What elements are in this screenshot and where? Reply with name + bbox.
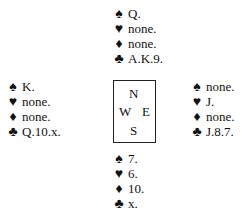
south-hearts-row: ♥6. [110,166,144,181]
east-hearts-row: ♥J. [188,94,235,109]
south-diamonds: 10. [128,181,144,196]
west-spades: K. [22,79,35,94]
north-spades: Q. [128,6,141,21]
compass-east: E [142,104,150,120]
north-diamonds: none. [128,36,157,51]
diamond-icon: ♦ [110,36,128,51]
club-icon: ♣ [110,51,128,66]
west-spades-row: ♠K. [4,79,61,94]
compass-south: S [130,123,137,139]
west-clubs-row: ♣Q.10.x. [4,124,61,139]
north-hearts-row: ♥none. [110,21,163,36]
diamond-icon: ♦ [110,181,128,196]
west-diamonds-row: ♦none. [4,109,61,124]
west-clubs: Q.10.x. [22,124,61,139]
north-hand: ♠Q. ♥none. ♦none. ♣A.K.9. [110,6,163,66]
west-diamonds: none. [22,109,51,124]
north-diamonds-row: ♦none. [110,36,163,51]
compass-west: W [119,104,131,120]
west-hand: ♠K. ♥none. ♦none. ♣Q.10.x. [4,79,61,139]
spade-icon: ♠ [4,79,22,94]
heart-icon: ♥ [4,94,22,109]
east-spades: none. [206,79,235,94]
diamond-icon: ♦ [4,109,22,124]
spade-icon: ♠ [110,6,128,21]
west-hearts-row: ♥none. [4,94,61,109]
diamond-icon: ♦ [188,109,206,124]
south-clubs: x. [128,196,138,211]
east-clubs: J.8.7. [206,124,234,139]
north-clubs: A.K.9. [128,51,163,66]
compass-box: N W E S [113,80,156,143]
club-icon: ♣ [4,124,22,139]
south-diamonds-row: ♦10. [110,181,144,196]
east-diamonds-row: ♦none. [188,109,235,124]
compass-north: N [129,86,138,102]
heart-icon: ♥ [110,21,128,36]
club-icon: ♣ [110,196,128,211]
club-icon: ♣ [188,124,206,139]
east-diamonds: none. [206,109,235,124]
south-hand: ♠7. ♥6. ♦10. ♣x. [110,151,144,211]
north-spades-row: ♠Q. [110,6,163,21]
south-spades: 7. [128,151,138,166]
west-hearts: none. [22,94,51,109]
east-hearts: J. [206,94,214,109]
heart-icon: ♥ [110,166,128,181]
north-clubs-row: ♣A.K.9. [110,51,163,66]
east-spades-row: ♠none. [188,79,235,94]
north-hearts: none. [128,21,157,36]
south-clubs-row: ♣x. [110,196,144,211]
east-clubs-row: ♣J.8.7. [188,124,235,139]
heart-icon: ♥ [188,94,206,109]
spade-icon: ♠ [110,151,128,166]
south-spades-row: ♠7. [110,151,144,166]
east-hand: ♠none. ♥J. ♦none. ♣J.8.7. [188,79,235,139]
spade-icon: ♠ [188,79,206,94]
south-hearts: 6. [128,166,138,181]
